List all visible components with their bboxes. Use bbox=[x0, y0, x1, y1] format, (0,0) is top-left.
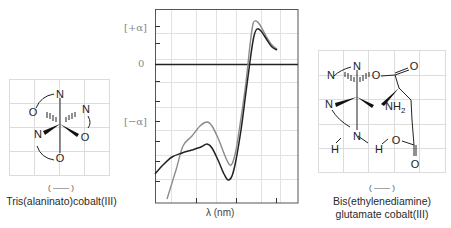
atom-n-bottom: N bbox=[353, 130, 361, 142]
series-tris-alaninato bbox=[167, 21, 277, 199]
atom-o-ring: O bbox=[372, 69, 381, 81]
right-molecule-caption-line1: Bis(ethylenediamine) bbox=[318, 195, 446, 208]
atom-o-carbonyl-bottom: O bbox=[411, 158, 420, 170]
bis-ethylenediamine-glutamate-structure: N N O O N NH2 N H H O O bbox=[316, 48, 448, 176]
atom-n-lower-left: N bbox=[325, 98, 333, 110]
atom-h-right: H bbox=[375, 143, 383, 155]
atom-n-top: N bbox=[353, 60, 361, 72]
atom-n-left: N bbox=[327, 69, 335, 81]
atom-h-left: H bbox=[331, 143, 339, 155]
atom-o-hydroxyl: O bbox=[392, 134, 401, 146]
x-axis-label: λ (nm) bbox=[206, 207, 234, 218]
atom-nh2: NH2 bbox=[385, 100, 406, 115]
right-molecule-caption-line2: glutamate cobalt(III) bbox=[318, 208, 446, 221]
chart-frame bbox=[156, 10, 299, 204]
atom-o-carbonyl-top: O bbox=[410, 60, 419, 72]
right-legend-mark: ( —— ) bbox=[357, 183, 407, 192]
